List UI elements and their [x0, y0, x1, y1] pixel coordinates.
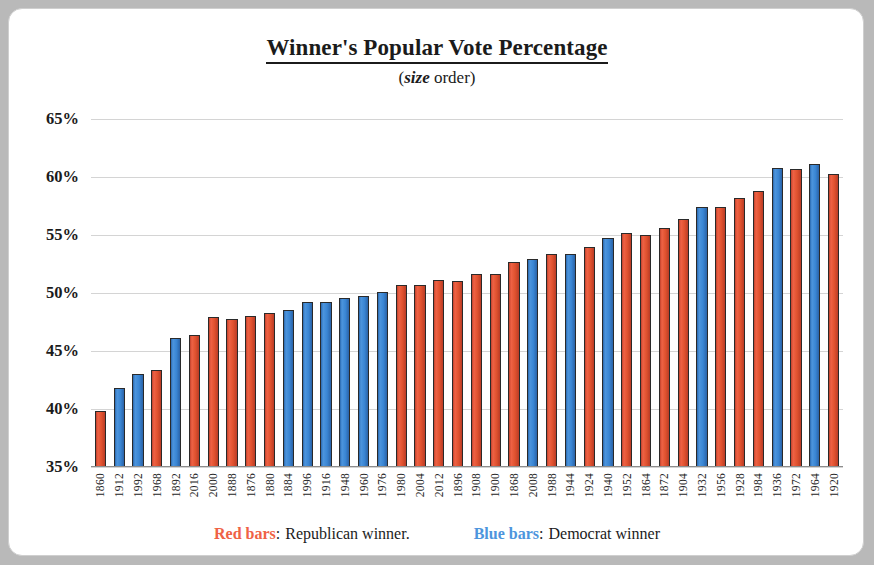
y-axis-tick-label: 55%: [46, 225, 79, 245]
x-axis-tick-label-1888: 1888: [226, 473, 238, 497]
x-axis-tick-label-1992: 1992: [132, 473, 144, 497]
x-axis-tick-label-2012: 2012: [433, 473, 445, 497]
bar-1916: 1916: [320, 302, 331, 467]
gridline-60: 60%: [91, 177, 843, 178]
bar-1944: 1944: [565, 254, 576, 467]
gridline-65: 65%: [91, 119, 843, 120]
y-axis-tick-label: 40%: [46, 399, 79, 419]
x-axis-tick-label-1916: 1916: [320, 473, 332, 497]
legend-item-republican: Red bars:Republican winner.: [214, 525, 410, 543]
x-axis-tick-label-1912: 1912: [113, 473, 125, 497]
x-axis-tick-label-1900: 1900: [489, 473, 501, 497]
gridline-45: 45%: [91, 351, 843, 352]
y-axis-tick-label: 50%: [46, 283, 79, 303]
gridline-50: 50%: [91, 293, 843, 294]
legend-separator-red: :: [276, 525, 280, 542]
x-axis-tick-label-1944: 1944: [564, 473, 576, 497]
axis-baseline: [91, 466, 843, 467]
x-axis-tick-label-2004: 2004: [414, 473, 426, 497]
x-axis-tick-label-1904: 1904: [677, 473, 689, 497]
x-axis-tick-label-1936: 1936: [771, 473, 783, 497]
bar-1972: 1972: [790, 169, 801, 467]
bar-1908: 1908: [471, 274, 482, 467]
gridline-35: 35%: [91, 467, 843, 468]
bar-1892: 1892: [170, 338, 181, 467]
legend-item-democrat: Blue bars:Democrat winner: [474, 525, 660, 543]
x-axis-tick-label-1984: 1984: [752, 473, 764, 497]
bar-1960: 1960: [358, 296, 369, 467]
bar-1976: 1976: [377, 292, 388, 467]
bar-1920: 1920: [828, 174, 839, 467]
bar-1956: 1956: [715, 207, 726, 467]
chart-card: Winner's Popular Vote Percentage (size o…: [8, 8, 864, 556]
bar-1948: 1948: [339, 298, 350, 467]
bar-1912: 1912: [114, 388, 125, 467]
x-axis-tick-label-2000: 2000: [207, 473, 219, 497]
bar-1884: 1884: [283, 310, 294, 467]
bar-1896: 1896: [452, 281, 463, 467]
bar-1860: 1860: [95, 411, 106, 467]
bar-1932: 1932: [696, 207, 707, 467]
gridline-55: 55%: [91, 235, 843, 236]
x-axis-tick-label-1920: 1920: [828, 473, 840, 497]
x-axis-tick-label-1868: 1868: [508, 473, 520, 497]
plot-area: 65%60%55%50%45%40%35% 186019121992196818…: [91, 119, 843, 467]
bar-2008: 2008: [527, 259, 538, 467]
x-axis-tick-label-1928: 1928: [734, 473, 746, 497]
bar-1968: 1968: [151, 370, 162, 467]
x-axis-tick-label-1976: 1976: [376, 473, 388, 497]
bar-1936: 1936: [772, 168, 783, 467]
bar-1940: 1940: [602, 238, 613, 467]
x-axis-tick-label-1884: 1884: [282, 473, 294, 497]
chart-legend: Red bars:Republican winner. Blue bars:De…: [9, 525, 864, 543]
x-axis-tick-label-1960: 1960: [358, 473, 370, 497]
x-axis-tick-label-1996: 1996: [301, 473, 313, 497]
y-axis-tick-label: 35%: [46, 457, 79, 477]
x-axis-tick-label-1924: 1924: [583, 473, 595, 497]
bar-1980: 1980: [396, 285, 407, 467]
bar-1992: 1992: [132, 374, 143, 467]
x-axis-tick-label-1988: 1988: [546, 473, 558, 497]
y-axis-tick-label: 60%: [46, 167, 79, 187]
bar-2004: 2004: [414, 285, 425, 467]
x-axis-tick-label-2016: 2016: [188, 473, 200, 497]
bar-1964: 1964: [809, 164, 820, 467]
x-axis-tick-label-1892: 1892: [170, 473, 182, 497]
x-axis-tick-label-2008: 2008: [527, 473, 539, 497]
legend-swatch-label-blue: Blue bars: [474, 525, 539, 542]
x-axis-tick-label-1908: 1908: [470, 473, 482, 497]
bar-1876: 1876: [245, 316, 256, 467]
legend-description-republican: Republican winner.: [285, 525, 409, 542]
gridline-40: 40%: [91, 409, 843, 410]
bar-1868: 1868: [508, 262, 519, 467]
bar-1928: 1928: [734, 198, 745, 467]
bar-1984: 1984: [753, 191, 764, 467]
bar-1988: 1988: [546, 254, 557, 467]
x-axis-tick-label-1972: 1972: [790, 473, 802, 497]
x-axis-tick-label-1860: 1860: [94, 473, 106, 497]
bar-1888: 1888: [226, 319, 237, 467]
bar-1996: 1996: [302, 302, 313, 467]
bar-1872: 1872: [659, 228, 670, 467]
legend-description-democrat: Democrat winner: [548, 525, 660, 542]
x-axis-tick-label-1880: 1880: [264, 473, 276, 497]
x-axis-tick-label-1932: 1932: [696, 473, 708, 497]
x-axis-tick-label-1956: 1956: [715, 473, 727, 497]
x-axis-tick-label-1968: 1968: [151, 473, 163, 497]
bar-1900: 1900: [490, 274, 501, 467]
legend-swatch-label-red: Red bars: [214, 525, 276, 542]
y-axis-tick-label: 45%: [46, 341, 79, 361]
x-axis-tick-label-1896: 1896: [452, 473, 464, 497]
x-axis-tick-label-1864: 1864: [640, 473, 652, 497]
x-axis-tick-label-1940: 1940: [602, 473, 614, 497]
plot-wrapper: 65%60%55%50%45%40%35% 186019121992196818…: [9, 9, 864, 556]
x-axis-tick-label-1952: 1952: [621, 473, 633, 497]
bar-1904: 1904: [678, 219, 689, 467]
bar-2012: 2012: [433, 280, 444, 467]
bar-1924: 1924: [584, 247, 595, 467]
bar-1880: 1880: [264, 313, 275, 467]
bar-2016: 2016: [189, 335, 200, 467]
x-axis-tick-label-1872: 1872: [658, 473, 670, 497]
x-axis-tick-label-1876: 1876: [245, 473, 257, 497]
x-axis-tick-label-1980: 1980: [395, 473, 407, 497]
